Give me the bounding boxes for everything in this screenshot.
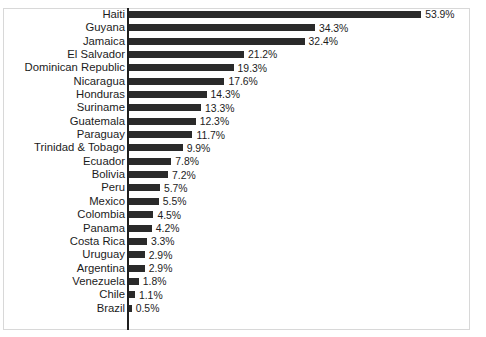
- bar: [129, 158, 171, 165]
- bar-row: Suriname13.3%: [0, 101, 486, 114]
- bar-value-label: 19.3%: [238, 62, 267, 75]
- bar-row: Costa Rica3.3%: [0, 235, 486, 248]
- bar-container: 4.2%: [129, 225, 152, 232]
- category-label: Peru: [101, 181, 125, 194]
- bar-row: Haiti53.9%: [0, 8, 486, 21]
- bar-row: Paraguay11.7%: [0, 128, 486, 141]
- category-label: Venezuela: [72, 275, 125, 288]
- bar-container: 21.2%: [129, 51, 244, 58]
- category-label: Nicaragua: [74, 75, 126, 88]
- bar-container: 2.9%: [129, 265, 145, 272]
- category-label: El Salvador: [67, 48, 125, 61]
- category-label: Honduras: [76, 88, 125, 101]
- bar-container: 53.9%: [129, 11, 421, 18]
- bar-rows: Haiti53.9%Guyana34.3%Jamaica32.4%El Salv…: [0, 8, 486, 315]
- category-label: Costa Rica: [70, 235, 125, 248]
- bar: [129, 251, 145, 258]
- bar-container: 17.6%: [129, 78, 224, 85]
- bar-value-label: 34.3%: [319, 22, 348, 35]
- bar: [129, 265, 145, 272]
- category-label: Guatemala: [70, 115, 125, 128]
- bar-value-label: 17.6%: [228, 75, 257, 88]
- bar: [129, 238, 147, 245]
- bar-chart: Haiti53.9%Guyana34.3%Jamaica32.4%El Salv…: [0, 0, 486, 337]
- bar: [129, 144, 183, 151]
- bar-value-label: 0.5%: [136, 302, 160, 315]
- bar: [129, 78, 224, 85]
- bar-container: 7.8%: [129, 158, 171, 165]
- category-label: Trinidad & Tobago: [34, 141, 125, 154]
- bar-value-label: 7.2%: [172, 169, 196, 182]
- bar: [129, 225, 152, 232]
- bar: [129, 131, 192, 138]
- bar: [129, 118, 196, 125]
- bar-row: Panama4.2%: [0, 222, 486, 235]
- bar-row: Nicaragua17.6%: [0, 75, 486, 88]
- bar-row: Mexico5.5%: [0, 195, 486, 208]
- category-label: Brazil: [97, 302, 125, 315]
- bar-row: Guyana34.3%: [0, 21, 486, 34]
- bar-row: Brazil0.5%: [0, 302, 486, 315]
- bar-row: Colombia4.5%: [0, 208, 486, 221]
- bar-row: Dominican Republic19.3%: [0, 61, 486, 74]
- category-label: Argentina: [77, 262, 125, 275]
- bar-value-label: 3.3%: [151, 235, 175, 248]
- bar-container: 7.2%: [129, 171, 168, 178]
- bar-row: Chile1.1%: [0, 288, 486, 301]
- category-label: Uruguay: [82, 248, 125, 261]
- bar-value-label: 2.9%: [149, 249, 173, 262]
- category-label: Bolivia: [92, 168, 125, 181]
- bar: [129, 38, 305, 45]
- bar-container: 19.3%: [129, 64, 234, 71]
- bar-container: 32.4%: [129, 38, 305, 45]
- category-label: Mexico: [89, 195, 125, 208]
- bar-value-label: 2.9%: [149, 262, 173, 275]
- bar: [129, 64, 234, 71]
- bar: [129, 198, 159, 205]
- bar-container: 1.8%: [129, 278, 139, 285]
- bar-container: 9.9%: [129, 144, 183, 151]
- bar-value-label: 11.7%: [196, 129, 225, 142]
- bar: [129, 278, 139, 285]
- category-label: Panama: [83, 222, 125, 235]
- bar: [129, 184, 160, 191]
- bar-container: 4.5%: [129, 211, 153, 218]
- bar-row: Peru5.7%: [0, 181, 486, 194]
- bar-value-label: 21.2%: [248, 48, 277, 61]
- bar-container: 13.3%: [129, 104, 201, 111]
- bar: [129, 291, 135, 298]
- bar-container: 5.5%: [129, 198, 159, 205]
- bar-container: 11.7%: [129, 131, 192, 138]
- category-label: Dominican Republic: [25, 61, 125, 74]
- bar: [129, 211, 153, 218]
- bar-row: Ecuador7.8%: [0, 155, 486, 168]
- bar-row: Bolivia7.2%: [0, 168, 486, 181]
- bar-value-label: 4.2%: [156, 222, 180, 235]
- bar-value-label: 4.5%: [157, 209, 181, 222]
- bar-value-label: 12.3%: [200, 115, 229, 128]
- bar-value-label: 7.8%: [175, 155, 199, 168]
- bar-row: Uruguay2.9%: [0, 248, 486, 261]
- bar: [129, 24, 315, 31]
- bar-value-label: 53.9%: [425, 8, 454, 21]
- bar-value-label: 1.8%: [143, 275, 167, 288]
- category-label: Haiti: [102, 8, 125, 21]
- bar-container: 14.3%: [129, 91, 207, 98]
- bar-row: Argentina2.9%: [0, 262, 486, 275]
- bar-value-label: 5.5%: [163, 195, 187, 208]
- bar-container: 0.5%: [129, 305, 132, 312]
- bar-row: Trinidad & Tobago9.9%: [0, 141, 486, 154]
- bar: [129, 171, 168, 178]
- bar-value-label: 9.9%: [187, 142, 211, 155]
- bar-value-label: 13.3%: [205, 102, 234, 115]
- bar-container: 5.7%: [129, 184, 160, 191]
- bar: [129, 11, 421, 18]
- category-label: Ecuador: [83, 155, 125, 168]
- bar-container: 2.9%: [129, 251, 145, 258]
- category-label: Guyana: [85, 21, 125, 34]
- bar-row: Venezuela1.8%: [0, 275, 486, 288]
- bar: [129, 104, 201, 111]
- bar-row: Guatemala12.3%: [0, 115, 486, 128]
- category-label: Jamaica: [83, 35, 125, 48]
- category-label: Paraguay: [77, 128, 125, 141]
